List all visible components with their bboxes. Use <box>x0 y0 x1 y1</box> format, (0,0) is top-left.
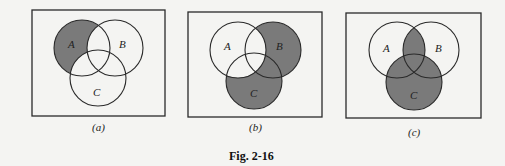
venn-panel-c: A B C (c) <box>346 13 481 139</box>
label-c: C <box>250 87 258 99</box>
panel-caption: (c) <box>408 126 421 139</box>
venn-figure: A B C (a) A B C (b) A B C (c) <box>0 0 505 166</box>
label-c: C <box>410 89 418 101</box>
venn-panel-b: A B C (b) <box>188 12 322 134</box>
shaded-region <box>226 22 301 109</box>
panel-caption: (b) <box>249 121 262 134</box>
shaded-region <box>386 22 459 110</box>
label-b: B <box>276 40 283 52</box>
label-b: B <box>119 38 126 50</box>
figure-title: Fig. 2-16 <box>229 149 274 163</box>
label-b: B <box>435 42 442 54</box>
label-a: A <box>223 40 231 52</box>
venn-panel-a: A B C (a) <box>32 10 165 134</box>
label-a: A <box>382 42 390 54</box>
label-a: A <box>67 38 75 50</box>
panel-caption: (a) <box>92 121 105 134</box>
label-c: C <box>93 86 101 98</box>
